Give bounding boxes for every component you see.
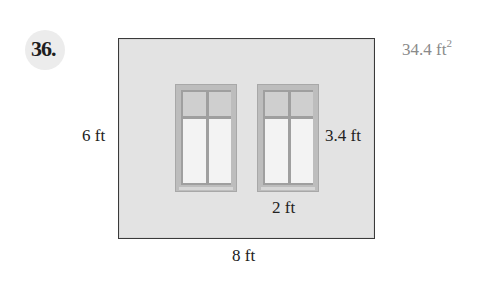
window-width-label: 2 ft <box>272 198 295 218</box>
answer-value: 34.4 ft <box>402 40 446 59</box>
window-1-sash <box>181 90 231 185</box>
wall-width-label: 8 ft <box>232 246 255 266</box>
window-2-sill <box>261 187 315 190</box>
window-2-pane-top-left <box>265 92 288 116</box>
window-1-sill <box>179 187 233 190</box>
window-height-label: 3.4 ft <box>325 126 361 146</box>
window-1-pane-top-left <box>183 92 206 116</box>
window-1-pane-bottom-left <box>183 119 206 183</box>
window-2-sash <box>263 90 313 185</box>
window-2 <box>257 84 319 192</box>
problem-number: 36. <box>31 36 56 62</box>
wall-height-label: 6 ft <box>82 126 105 146</box>
window-2-pane-top-right <box>291 92 313 116</box>
window-2-pane-bottom-right <box>291 119 313 183</box>
window-1 <box>175 84 237 192</box>
answer-exponent: 2 <box>446 37 452 49</box>
answer-text: 34.4 ft2 <box>402 40 452 60</box>
window-1-pane-bottom-right <box>209 119 231 183</box>
problem-number-badge: 36. <box>25 30 65 70</box>
window-1-pane-top-right <box>209 92 231 116</box>
window-2-pane-bottom-left <box>265 119 288 183</box>
